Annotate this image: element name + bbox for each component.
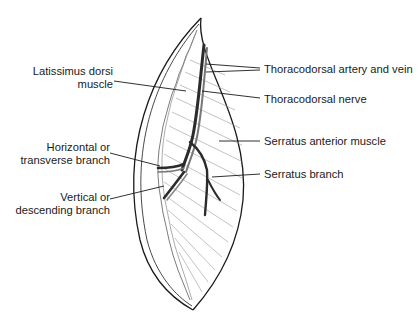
label-line: transverse branch [10,154,110,167]
label-serratus-branch: Serratus branch [264,168,344,181]
label-horizontal-branch: Horizontal or transverse branch [10,141,110,167]
label-latissimus-dorsi: Latissimus dorsi muscle [20,65,113,91]
leader-lines [110,64,260,199]
label-thoracodorsal-artery-vein: Thoracodorsal artery and vein [264,63,413,76]
label-line: Latissimus dorsi [20,65,113,78]
label-line: Horizontal or [10,141,110,154]
label-vertical-branch: Vertical or descending branch [10,191,110,217]
label-line: Vertical or [10,191,110,204]
label-line: descending branch [10,204,110,217]
label-serratus-anterior: Serratus anterior muscle [264,135,386,148]
label-thoracodorsal-nerve: Thoracodorsal nerve [264,93,367,106]
label-line: muscle [20,78,113,91]
